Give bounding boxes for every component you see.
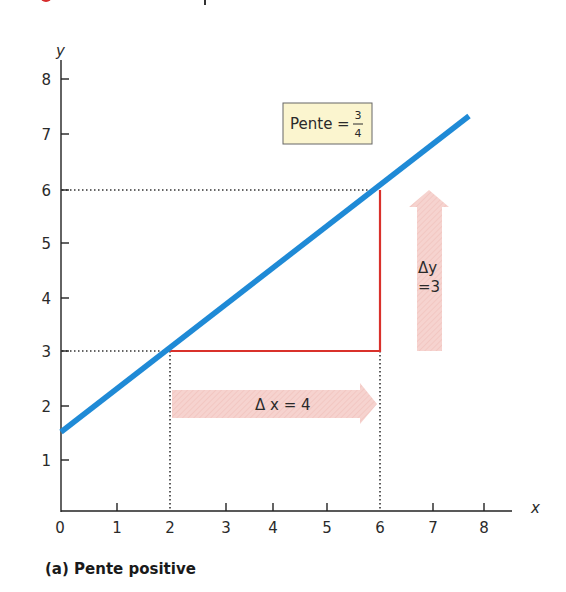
svg-text:7: 7 [41, 126, 51, 144]
svg-text:6: 6 [41, 182, 51, 200]
slope-label: Pente = [290, 115, 354, 133]
svg-text:5: 5 [322, 519, 332, 537]
x-axis-label: x [530, 499, 540, 517]
svg-text:8: 8 [479, 519, 489, 537]
figure-caption: (a) Pente positive [45, 560, 196, 578]
svg-text:8: 8 [41, 71, 51, 89]
svg-text:1: 1 [41, 452, 51, 470]
svg-text:5: 5 [41, 235, 51, 253]
slope-triangle [170, 190, 381, 352]
svg-text:4: 4 [41, 290, 51, 308]
y-axis-label: y [55, 42, 66, 60]
delta-y-label-2: =3 [418, 278, 440, 296]
delta-x-label: Δ x = 4 [255, 396, 311, 414]
data-line [61, 116, 469, 432]
svg-text:7: 7 [428, 519, 438, 537]
x-tick-labels: 0 1 2 3 4 5 6 7 8 [55, 519, 489, 537]
svg-text:2: 2 [165, 519, 175, 537]
slope-denominator: 4 [355, 127, 362, 140]
delta-x-arrow: Δ x = 4 [172, 383, 377, 424]
slope-numerator: 3 [355, 109, 362, 122]
svg-text:2: 2 [41, 398, 51, 416]
svg-text:0: 0 [55, 519, 65, 537]
slope-box: Pente = 3 4 [283, 103, 372, 144]
delta-y-arrow: Δy =3 [409, 190, 449, 351]
y-tick-labels: 8 7 6 5 4 3 2 1 [41, 71, 51, 470]
delta-y-label-1: Δy [418, 259, 437, 277]
svg-text:3: 3 [41, 343, 51, 361]
slope-chart: Δ x = 4 Δy =3 8 7 6 5 4 [0, 0, 566, 592]
svg-text:6: 6 [375, 519, 385, 537]
svg-text:1: 1 [112, 519, 122, 537]
svg-text:4: 4 [268, 519, 278, 537]
svg-text:3: 3 [221, 519, 231, 537]
